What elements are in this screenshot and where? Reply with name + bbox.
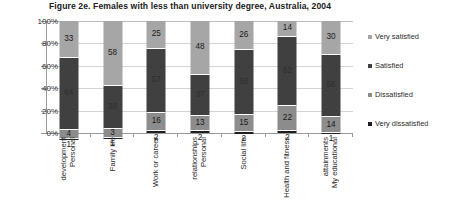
y-axis-label: 60%	[12, 61, 58, 70]
bar-segment[interactable]: 56	[322, 55, 341, 118]
bar-segment-value: 33	[64, 35, 73, 43]
bar-segment-value: 48	[195, 43, 204, 51]
x-axis-category-label: Personalrelationships	[177, 137, 221, 207]
x-axis-category-label: Work or career	[133, 137, 177, 207]
bar-segment[interactable]: 62	[278, 37, 297, 106]
bar-segment-value: 37	[195, 91, 204, 99]
bar-segment-value: 3	[110, 129, 115, 137]
chart-legend: Very satisfiedSatisfiedDissatisfiedVery …	[368, 22, 450, 138]
bar-slot: 3056141	[309, 21, 353, 133]
x-axis-category-line: attainments	[321, 137, 330, 176]
bar-segment[interactable]: 13	[190, 116, 209, 131]
bar-segment[interactable]: 2	[278, 131, 297, 133]
bar-segment-value: 58	[108, 49, 117, 57]
x-axis-category-label: Social life	[221, 137, 265, 207]
y-axis-label: 100%	[12, 17, 58, 26]
x-axis-tick	[352, 133, 353, 137]
bar-segment[interactable]: 48	[190, 21, 209, 75]
stacked-bar[interactable]: 583831	[103, 21, 122, 133]
bar-segment[interactable]: 26	[234, 21, 253, 50]
legend-swatch-icon	[368, 35, 372, 39]
bar-segment-value: 13	[195, 119, 204, 127]
legend-item[interactable]: Very dissatisfied	[368, 109, 450, 138]
bar-slot: 4837132	[178, 21, 222, 133]
bar-slot: 583831	[91, 21, 135, 133]
legend-label: Very dissatisfied	[375, 119, 428, 128]
stacked-bar[interactable]: 3056141	[322, 21, 341, 133]
legend-label: Very satisfied	[375, 32, 419, 41]
bar-segment-value: 64	[64, 89, 73, 97]
y-axis-label: 20%	[12, 106, 58, 115]
x-axis-category-label: My educationalattainments	[308, 137, 352, 207]
bar-segment[interactable]: 57	[147, 49, 166, 113]
legend-item[interactable]: Very satisfied	[368, 22, 450, 51]
bar-segment[interactable]: 38	[103, 86, 122, 129]
bar-segment-value: 62	[283, 67, 292, 75]
stacked-bar[interactable]: 2557162	[147, 21, 166, 133]
bar-segment-value: 25	[152, 30, 161, 38]
stacked-bar[interactable]: 2658152	[234, 21, 253, 133]
bar-segment[interactable]: 58	[234, 50, 253, 115]
x-axis-category-line: Family life	[107, 137, 116, 171]
bar-slot: 2557162	[134, 21, 178, 133]
bar-segment[interactable]: 2	[147, 131, 166, 133]
legend-label: Satisfied	[375, 61, 403, 70]
legend-swatch-icon	[368, 64, 372, 68]
x-axis-category-line: Social life	[238, 137, 247, 170]
x-axis-category-label: Health and fitness	[265, 137, 309, 207]
bar-segment-value: 30	[327, 33, 336, 41]
legend-label: Dissatisfied	[375, 90, 413, 99]
x-axis-category-line: Personal	[68, 137, 77, 167]
stacked-bar[interactable]: 4837132	[190, 21, 209, 133]
bar-segment[interactable]: 2	[190, 131, 209, 133]
y-axis-label: 40%	[12, 84, 58, 93]
bar-segment[interactable]: 15	[234, 115, 253, 132]
y-axis-label: 80%	[12, 39, 58, 48]
bar-segment-value: 15	[239, 119, 248, 127]
bar-segment[interactable]: 22	[278, 106, 297, 131]
bar-segment-value: 38	[108, 103, 117, 111]
x-axis-category-line: development	[59, 137, 68, 180]
bar-segment-value: 14	[283, 24, 292, 32]
bar-segment-value: 26	[239, 31, 248, 39]
bar-segment[interactable]: 1	[322, 133, 341, 134]
bar-segment-value: 58	[239, 78, 248, 86]
x-axis-category-line: Work or career	[151, 137, 160, 187]
bar-segment[interactable]: 37	[190, 75, 209, 116]
bar-segment[interactable]: 14	[278, 21, 297, 37]
bar-segment[interactable]: 16	[147, 113, 166, 131]
chart-title: Figure 2e. Females with less than univer…	[0, 1, 380, 11]
plot-area: 3364415838312557162483713226581521462222…	[46, 21, 353, 134]
x-axis-category-line: Health and fitness	[282, 137, 291, 198]
x-axis-category-label: Family life	[90, 137, 134, 207]
x-axis-category-label: Personaldevelopment	[46, 137, 90, 207]
bar-segment[interactable]: 14	[322, 117, 341, 133]
x-axis-category-line: relationships	[190, 137, 199, 180]
x-axis-category-line: Personal	[199, 137, 208, 167]
legend-item[interactable]: Dissatisfied	[368, 80, 450, 109]
bar-segment-value: 56	[327, 81, 336, 89]
stacked-bar[interactable]: 336441	[59, 21, 78, 133]
legend-swatch-icon	[368, 122, 372, 126]
bar-slot: 1462222	[266, 21, 310, 133]
x-axis-category-line: My educational	[330, 137, 339, 188]
bar-segment-value: 14	[327, 121, 336, 129]
bar-segment[interactable]: 30	[322, 21, 341, 55]
bar-segment[interactable]: 33	[59, 21, 78, 58]
bar-segment-value: 16	[152, 117, 161, 125]
bar-segment-value: 57	[152, 76, 161, 84]
bar-segment-value: 22	[283, 114, 292, 122]
legend-item[interactable]: Satisfied	[368, 51, 450, 80]
stacked-bar[interactable]: 1462222	[278, 21, 297, 133]
chart-container: Figure 2e. Females with less than univer…	[0, 0, 450, 210]
legend-swatch-icon	[368, 93, 372, 97]
bar-segment[interactable]: 58	[103, 21, 122, 86]
bar-segment[interactable]: 64	[59, 58, 78, 130]
bar-segment[interactable]: 2	[234, 132, 253, 134]
bar-slot: 2658152	[222, 21, 266, 133]
bar-segment[interactable]: 25	[147, 21, 166, 49]
bar-slot: 336441	[47, 21, 91, 133]
